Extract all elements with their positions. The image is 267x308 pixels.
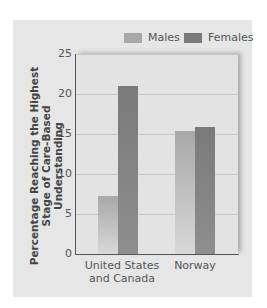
legend-item-females: Females bbox=[184, 31, 254, 44]
legend-label-females: Females bbox=[208, 31, 254, 44]
y-axis bbox=[75, 54, 76, 255]
bar-females-0 bbox=[118, 86, 138, 254]
bar-females-1 bbox=[195, 127, 215, 254]
x-label-norway: Norway bbox=[165, 259, 225, 272]
legend-label-males: Males bbox=[148, 31, 180, 44]
females-swatch bbox=[184, 33, 202, 43]
males-swatch bbox=[124, 33, 142, 43]
bar-males-0 bbox=[98, 196, 118, 254]
legend-item-males: Males bbox=[124, 31, 180, 44]
y-tick-label: 25 bbox=[52, 48, 72, 60]
x-label-us-canada: United States and Canada bbox=[82, 259, 162, 285]
bar-males-1 bbox=[175, 131, 195, 254]
gridline bbox=[76, 94, 238, 95]
y-axis-label: Percentage Reaching the Highest Stage of… bbox=[28, 66, 64, 266]
gridline bbox=[76, 54, 238, 55]
x-axis bbox=[75, 254, 239, 255]
